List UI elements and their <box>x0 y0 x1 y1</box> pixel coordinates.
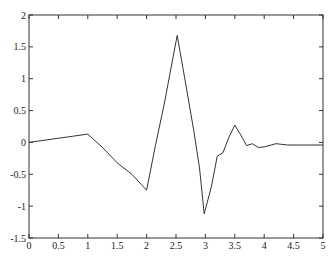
y-tick-label: 2 <box>21 10 26 21</box>
x-tick-label: 1 <box>85 240 90 251</box>
x-tick-label: 0 <box>27 240 32 251</box>
y-tick-label: 1 <box>21 73 26 84</box>
x-tick-label: 4 <box>262 240 267 251</box>
y-tick-label: 0.5 <box>14 105 27 116</box>
y-axis-ticks: 21.510.50-0.5-1-1.5 <box>10 10 323 244</box>
x-tick-label: 3 <box>203 240 208 251</box>
x-tick-label: 2 <box>144 240 149 251</box>
x-axis-ticks: 00.511.522.533.544.55 <box>27 15 326 251</box>
x-tick-label: 5 <box>321 240 326 251</box>
y-tick-label: -1 <box>18 201 26 212</box>
x-tick-label: 2.5 <box>170 240 183 251</box>
x-tick-label: 0.5 <box>52 240 65 251</box>
line-chart: 21.510.50-0.5-1-1.5 00.511.522.533.544.5… <box>0 0 335 261</box>
y-tick-label: -1.5 <box>10 233 26 244</box>
x-tick-label: 1.5 <box>111 240 124 251</box>
signal-line <box>29 35 323 213</box>
y-tick-label: 0 <box>21 137 26 148</box>
plot-frame <box>29 15 323 238</box>
x-tick-label: 3.5 <box>229 240 242 251</box>
x-tick-label: 4.5 <box>287 240 300 251</box>
y-tick-label: 1.5 <box>14 41 27 52</box>
y-tick-label: -0.5 <box>10 169 26 180</box>
